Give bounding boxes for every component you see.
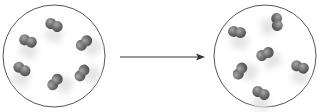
right-container (214, 5, 316, 112)
diagram-canvas (0, 0, 321, 112)
left-container (3, 5, 105, 107)
transition-arrow (120, 54, 205, 61)
